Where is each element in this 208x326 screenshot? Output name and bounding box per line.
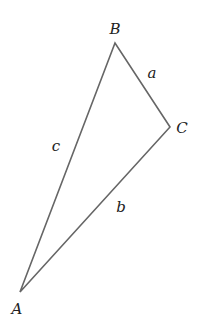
vertex-label-a: A bbox=[10, 300, 23, 318]
triangle-diagram: A B C a b c bbox=[0, 0, 208, 326]
vertex-label-b: B bbox=[108, 20, 120, 38]
side-label-b: b bbox=[116, 198, 126, 216]
side-label-a: a bbox=[148, 64, 157, 82]
vertex-label-c: C bbox=[176, 119, 188, 137]
side-label-c: c bbox=[52, 137, 61, 155]
